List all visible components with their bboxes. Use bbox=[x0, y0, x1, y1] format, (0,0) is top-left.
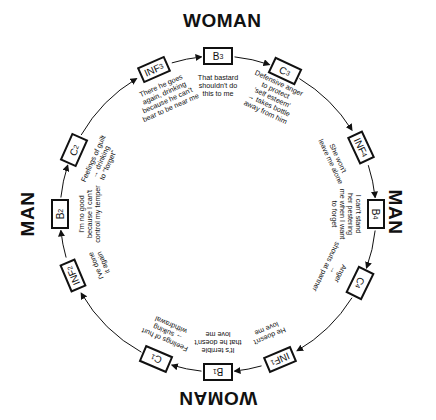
node-b2: B2 bbox=[51, 199, 69, 229]
node-subscript: 1 bbox=[213, 369, 217, 376]
node-b4: B4 bbox=[367, 199, 385, 229]
cycle-arrow bbox=[235, 57, 270, 65]
cycle-arrow bbox=[235, 366, 262, 371]
role-label-left: MAN bbox=[17, 192, 39, 237]
cycle-arrow bbox=[299, 79, 352, 131]
cycle-arrow bbox=[172, 57, 202, 63]
cycle-arrow bbox=[81, 293, 141, 352]
cycle-arrow bbox=[172, 365, 202, 371]
node-subscript: 4 bbox=[373, 215, 380, 219]
cycle-arrow bbox=[297, 298, 352, 351]
node-label: B bbox=[371, 209, 382, 216]
node-subscript: 2 bbox=[57, 209, 64, 213]
cycle-arrow bbox=[368, 165, 375, 197]
node-b3: B3 bbox=[203, 47, 233, 65]
cycle-arrow bbox=[366, 231, 375, 269]
node-label: B bbox=[55, 213, 66, 220]
node-caption-b4: I can't stand her pestering me when I wa… bbox=[330, 189, 362, 239]
cycle-arrow bbox=[61, 165, 68, 197]
node-subscript: 3 bbox=[219, 53, 223, 60]
cycle-arrow bbox=[81, 79, 136, 135]
node-caption-b1: It's terrible that he doesn't love me bbox=[195, 330, 242, 354]
node-label: B bbox=[213, 51, 220, 62]
role-label-top: WOMAN bbox=[183, 10, 261, 32]
node-b1: B1 bbox=[203, 363, 233, 381]
role-label-right: MAN bbox=[384, 190, 406, 235]
role-label-bottom: WOMAN bbox=[179, 387, 257, 409]
node-caption-b3: That bastard shouldn't do this to me bbox=[198, 74, 238, 98]
cycle-arrow bbox=[61, 231, 66, 258]
node-label: B bbox=[217, 367, 224, 378]
abc-cycle-diagram: WOMAN MAN WOMAN MAN B3That bastard shoul… bbox=[0, 0, 436, 420]
node-caption-b2: I'm no good because I can't control my t… bbox=[78, 185, 102, 243]
